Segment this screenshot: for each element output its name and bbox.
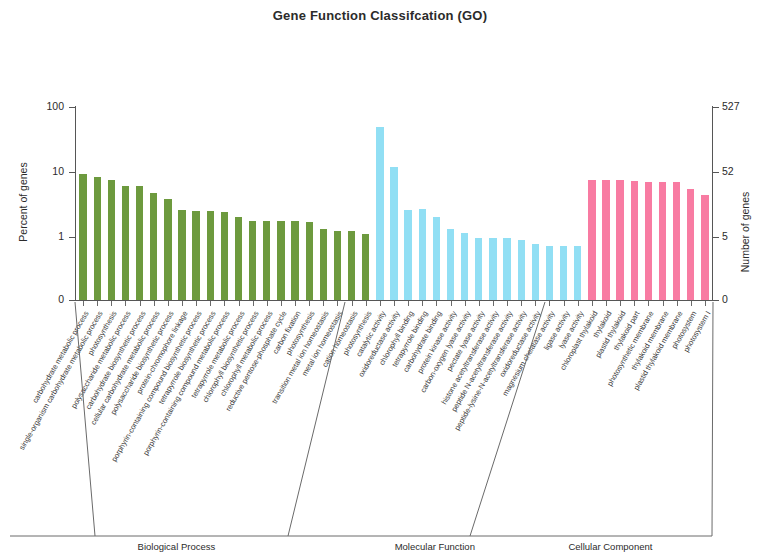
y-axis-left-tick bbox=[69, 107, 76, 108]
y-axis-right-tick bbox=[712, 237, 719, 238]
y-axis-left-tick bbox=[69, 172, 76, 173]
group-label-mf: Molecular Function bbox=[365, 541, 505, 552]
group-labels: Biological ProcessMolecular FunctionCell… bbox=[0, 0, 760, 558]
go-classification-chart: Gene Function Classifcation (GO) Percent… bbox=[0, 0, 760, 558]
y-axis-left-tick bbox=[69, 300, 76, 301]
y-axis-right-tick bbox=[712, 107, 719, 108]
y-axis-right-tick bbox=[712, 300, 719, 301]
y-axis-left-tick bbox=[69, 237, 76, 238]
y-axis-right-tick bbox=[712, 172, 719, 173]
group-label-cc: Cellular Component bbox=[540, 541, 680, 552]
group-label-bp: Biological Process bbox=[106, 541, 246, 552]
